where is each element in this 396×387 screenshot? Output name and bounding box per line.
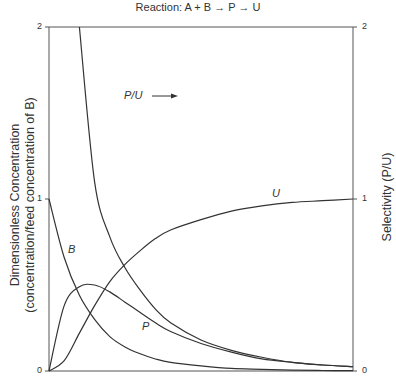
plot-area — [0, 0, 396, 387]
axes — [45, 27, 357, 371]
curve-p-over-u — [79, 27, 353, 367]
y-label-line-1: Dimensionless Concentration — [8, 70, 23, 340]
curve-label-b: B — [68, 243, 75, 255]
curve-p — [49, 284, 353, 371]
tick-right-1: 1 — [362, 193, 367, 203]
y-axis-label-right: Selectivity (P/U) — [380, 132, 394, 262]
curve-label-pu: P/U — [124, 89, 142, 101]
tick-right-0: 0 — [362, 365, 367, 375]
y-label-line-2: (concentration/feed concentration of B) — [23, 70, 38, 340]
curve-label-u: U — [272, 187, 280, 199]
y-axis-label-left: Dimensionless Concentration (concentrati… — [8, 70, 38, 340]
curve-label-p: P — [142, 320, 149, 332]
tick-right-2: 2 — [362, 21, 367, 31]
tick-left-0: 0 — [37, 365, 42, 375]
tick-left-2: 2 — [37, 21, 42, 31]
